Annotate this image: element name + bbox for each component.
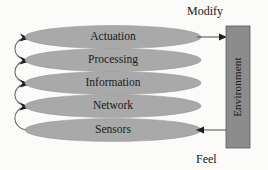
diagram-canvas: Actuation Processing Information Network…	[0, 0, 268, 170]
flow-modify[interactable]	[197, 34, 227, 41]
layer-label: Actuation	[90, 30, 136, 42]
layer-label: Processing	[88, 53, 138, 66]
diagram-svg: Actuation Processing Information Network…	[0, 0, 268, 170]
layer-network[interactable]: Network	[25, 95, 201, 118]
layer-label: Network	[93, 99, 133, 111]
environment-label: Environment	[231, 57, 243, 117]
layer-label: Information	[86, 76, 141, 88]
layer-information[interactable]: Information	[25, 72, 201, 95]
environment-box[interactable]: Environment	[226, 26, 250, 148]
modify-label: Modify	[187, 4, 223, 18]
layer-processing[interactable]: Processing	[25, 49, 201, 72]
flow-feel[interactable]	[196, 127, 226, 134]
feel-label: Feel	[196, 152, 217, 166]
layer-actuation[interactable]: Actuation	[25, 26, 201, 49]
internal-link-arrowheads	[20, 34, 31, 111]
layer-sensors[interactable]: Sensors	[25, 119, 201, 142]
layer-stack: Actuation Processing Information Network…	[25, 26, 201, 142]
layer-label: Sensors	[95, 123, 131, 135]
